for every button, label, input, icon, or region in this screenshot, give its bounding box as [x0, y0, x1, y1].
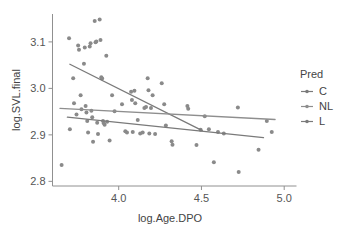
- legend-swatch-point: [305, 120, 309, 124]
- data-point: [90, 115, 94, 119]
- data-point: [162, 102, 166, 106]
- data-point: [84, 111, 88, 115]
- data-point: [67, 36, 71, 40]
- data-point: [95, 121, 99, 125]
- legend-item-label: NL: [319, 100, 333, 112]
- legend-item-l[interactable]: L: [301, 115, 325, 127]
- x-axis-label: log.Age.DPO: [138, 212, 203, 224]
- x-tick-group: 4.04.55.0: [111, 186, 292, 204]
- y-tick-label: 2.8: [30, 175, 45, 187]
- data-point: [212, 160, 216, 164]
- data-point: [83, 45, 87, 49]
- data-point: [104, 54, 108, 58]
- data-point: [68, 127, 72, 131]
- y-tick-label: 3.1: [30, 36, 45, 48]
- data-point: [94, 39, 98, 43]
- legend-item-label: C: [319, 85, 327, 97]
- data-point: [147, 131, 151, 135]
- x-tick-label: 4.5: [194, 192, 209, 204]
- data-point: [98, 38, 102, 42]
- data-point: [120, 102, 124, 106]
- data-point: [257, 148, 261, 152]
- data-point: [60, 163, 64, 167]
- data-point: [144, 105, 148, 109]
- data-point: [153, 132, 157, 136]
- data-point: [270, 130, 274, 134]
- data-point: [186, 107, 190, 111]
- data-point: [89, 41, 93, 45]
- data-point: [71, 76, 75, 80]
- legend-group: PredCNLL: [300, 68, 333, 127]
- data-point: [236, 105, 240, 109]
- data-point: [130, 98, 134, 102]
- y-tick-group: 2.82.93.03.1: [30, 36, 52, 187]
- data-point: [141, 131, 145, 135]
- data-point: [82, 62, 86, 66]
- data-points-group: [60, 18, 274, 174]
- data-point: [125, 131, 129, 135]
- data-point: [86, 131, 90, 135]
- data-point: [146, 88, 150, 92]
- data-point: [146, 76, 150, 80]
- data-point: [91, 140, 95, 144]
- data-point: [110, 93, 114, 97]
- data-point: [96, 132, 100, 136]
- data-point: [79, 93, 83, 97]
- axis-group: [53, 14, 297, 186]
- x-tick-label: 5.0: [277, 192, 292, 204]
- data-point: [77, 48, 81, 52]
- data-point: [131, 130, 135, 134]
- x-tick-label: 4.0: [111, 192, 126, 204]
- y-tick-label: 3.0: [30, 82, 45, 94]
- data-point: [84, 104, 88, 108]
- data-point: [237, 170, 241, 174]
- legend-item-c[interactable]: C: [301, 85, 327, 97]
- legend-item-label: L: [319, 115, 325, 127]
- data-point: [76, 44, 80, 48]
- data-point: [108, 138, 112, 142]
- y-tick-label: 2.9: [30, 129, 45, 141]
- data-point: [93, 19, 97, 23]
- plot-canvas: 2.82.93.03.1 4.04.55.0 PredCNLL log.Age.…: [0, 0, 345, 235]
- legend-swatch-point: [305, 90, 309, 94]
- data-point: [207, 127, 211, 131]
- scatter-plot-figure: 2.82.93.03.1 4.04.55.0 PredCNLL log.Age.…: [0, 0, 345, 235]
- data-point: [194, 143, 198, 147]
- legend-item-nl[interactable]: NL: [301, 100, 333, 112]
- legend-title: Pred: [300, 68, 323, 80]
- data-point: [136, 118, 140, 122]
- data-point: [98, 18, 102, 22]
- data-point: [170, 143, 174, 147]
- data-point: [132, 89, 136, 93]
- legend-swatch-point: [305, 105, 309, 109]
- data-point: [151, 93, 155, 97]
- y-axis-label: log.SVL.final: [10, 69, 22, 131]
- data-point: [72, 101, 76, 105]
- data-point: [149, 106, 153, 110]
- data-point: [160, 81, 164, 85]
- data-point: [75, 112, 79, 116]
- data-point: [133, 101, 137, 105]
